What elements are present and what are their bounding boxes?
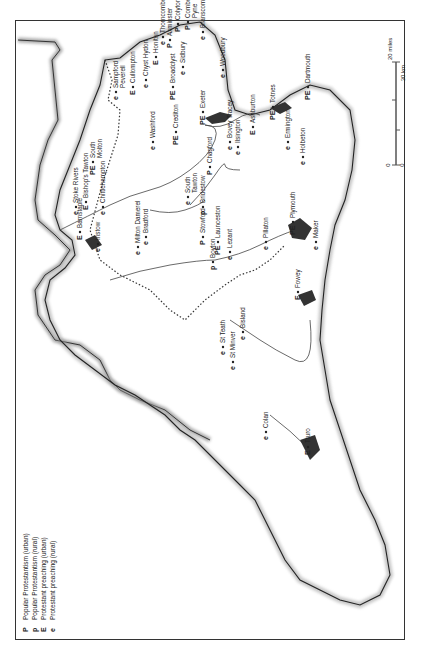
legend: P Popular Protestantism (urban) p Popula… [22,533,57,632]
place-symbol: e [134,251,141,255]
place-symbol: E [152,60,159,65]
place-dot [229,251,231,253]
place-dot [92,161,94,163]
place-symbol: P [166,43,173,48]
place-dot [287,141,289,143]
place-name: St Minver [229,331,236,358]
place-dot [237,146,239,148]
place-dot [307,446,309,448]
place-symbol: PE [172,135,179,145]
place-name: Ermington [284,109,292,138]
place-symbol: E [294,295,301,300]
place-plymouth: PEPlymouth [289,191,297,235]
place-totnes: PETotnes [269,84,276,120]
place-dot [202,31,204,33]
place-symbol: E [82,205,89,210]
place-exeter: PEExeter [199,90,206,125]
place-chagford: PChagford [206,137,214,175]
place-st-minver: eSt Minver [229,331,236,370]
place-name: Broadclyst [169,53,177,83]
place-symbol: e [184,201,191,205]
place-name: Cullompton [129,51,137,83]
place-axminster: PAxminster [166,8,173,48]
place-bodmin: eBisland [239,307,246,340]
estuaries [85,102,320,460]
place-name: Instow [94,221,101,240]
place-name: Plymouth [289,191,297,218]
peninsula-outline [45,22,390,605]
place-dot [209,166,211,168]
place-name: Bridestow [199,175,206,203]
place-symbol: e [234,151,241,155]
place-symbol: e [229,366,236,370]
place-dot [252,126,254,128]
place-symbol: P [174,27,181,32]
place-symbol: e [179,71,186,75]
scale-km-zero: 0 [399,163,405,167]
svg-text:Protestant preaching (rural): Protestant preaching (rural) [49,541,57,620]
place-dot [187,21,189,23]
place-symbol: e [284,146,291,150]
place-name: Colyton [174,0,182,20]
place-name: Woodbury [219,37,227,66]
rivers [60,113,311,450]
place-name: Combe [184,0,191,18]
place-name: Lezant [226,229,233,248]
place-symbol: E [129,90,136,95]
place-name: Launceston [214,205,221,238]
place-dot [315,241,317,243]
map-canvas: 20 miles 30 km 0 0 P Popular Protestanti… [0,0,422,654]
place-dot [162,36,164,38]
place-dot [169,39,171,41]
place-symbol: e [219,74,226,78]
place-maker: eMaker [312,221,319,251]
place-dot [187,196,189,198]
place-name: Stoke Rivers [72,167,79,203]
place-name: Truro [304,428,311,443]
place-name: Bradford [142,208,149,233]
place-dot [265,241,267,243]
legend-item-popular-urban: P Popular Protestantism (urban) [22,533,30,632]
place-symbol: e [94,248,101,252]
place-ermington: eErmington [284,109,292,150]
place-name: Fowey [294,269,302,288]
place-name-line2: Peverell [119,65,126,88]
place-symbol: e [262,246,269,250]
place-name: South [184,176,191,193]
place-name: Holbeton [299,127,306,153]
place-symbol: P [199,240,206,245]
place-honiton: EHoniton [152,31,159,65]
place-dot [229,141,231,143]
place-dot [145,236,147,238]
place-name: Branscombe [199,0,206,28]
place-symbol: e [219,351,226,355]
place-symbol: E [249,130,256,135]
place-name: Maker [312,221,319,239]
place-symbol: PE [269,110,276,120]
place-dot [307,86,309,88]
place-dot [172,86,174,88]
svg-text:e: e [49,628,56,632]
place-symbol: P [184,25,191,30]
place-name: Pillaton [262,217,269,238]
place-dartmouth: PEDartmouth [304,53,311,100]
place-dot [212,261,214,263]
place-symbol: E [304,450,311,455]
place-name: Chagford [206,137,214,163]
place-symbol: e [239,336,246,340]
place-name-line2: Molton [96,139,103,158]
place-name: Ilsington [234,119,242,143]
place-symbol: P [206,170,213,175]
place-dot [222,69,224,71]
place-dot [155,56,157,58]
place-dot [85,201,87,203]
place-name: Ashburton [249,94,256,123]
place-name: Chittlehampton [99,160,107,203]
place-lezant: eLezant [226,229,233,260]
svg-text:Protestant preaching (urban): Protestant preaching (urban) [40,537,48,620]
legend-item-preaching-urban: E Protestant preaching (urban) [40,537,48,632]
place-name: Colan [262,411,269,428]
place-dot [182,66,184,68]
place-name: Axminster [166,8,173,36]
place-washford: eWashford [149,111,156,150]
